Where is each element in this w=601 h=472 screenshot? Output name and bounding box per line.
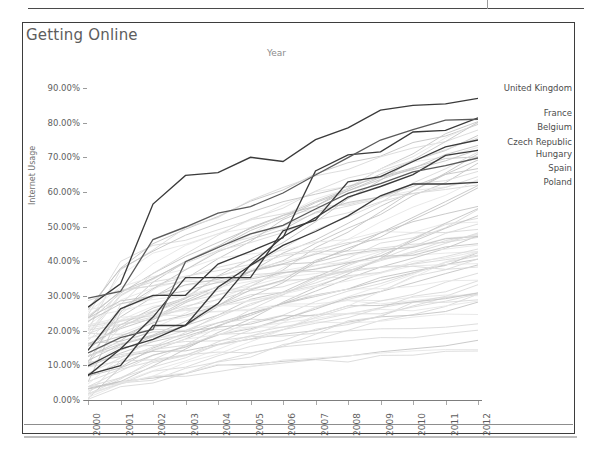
series-label-belgium: Belgium bbox=[0, 122, 572, 132]
x-axis-title: Year bbox=[0, 48, 553, 58]
document-top-rule bbox=[28, 8, 584, 9]
plot-svg bbox=[88, 88, 478, 400]
x-axis-tick-mark bbox=[121, 401, 122, 405]
y-axis-tick-label: 60.00% bbox=[18, 187, 80, 197]
x-axis-tick-mark bbox=[218, 401, 219, 405]
document-top-tick-mark bbox=[487, 0, 488, 9]
y-axis-tick-label: 40.00% bbox=[18, 256, 80, 266]
y-axis-tick-mark bbox=[83, 261, 87, 262]
y-axis-tick-mark bbox=[83, 296, 87, 297]
series-label-france: France bbox=[0, 108, 572, 118]
background-series-line bbox=[88, 301, 478, 384]
chart-frame-shadow bbox=[24, 436, 577, 438]
series-label-hungary: Hungary bbox=[0, 149, 572, 159]
background-series-line bbox=[88, 209, 478, 389]
y-axis-tick-mark bbox=[83, 192, 87, 193]
chart-title: Getting Online bbox=[26, 26, 138, 44]
series-label-poland: Poland bbox=[0, 177, 572, 187]
x-axis-tick-mark bbox=[88, 401, 89, 405]
series-label-spain: Spain bbox=[0, 163, 572, 173]
x-axis-tick-mark bbox=[381, 401, 382, 405]
x-axis-tick-mark bbox=[316, 401, 317, 405]
y-axis-tick-mark bbox=[83, 365, 87, 366]
y-axis-tick-mark bbox=[83, 227, 87, 228]
x-axis-tick-mark bbox=[413, 401, 414, 405]
x-axis-tick-mark bbox=[446, 401, 447, 405]
y-axis-tick-label: 20.00% bbox=[18, 326, 80, 336]
x-axis-tick-mark bbox=[283, 401, 284, 405]
x-axis-tick-mark bbox=[186, 401, 187, 405]
series-label-czech-republic: Czech Republic bbox=[0, 137, 572, 147]
x-axis-tick-mark bbox=[251, 401, 252, 405]
y-axis-tick-label: 50.00% bbox=[18, 222, 80, 232]
x-axis-tick-mark bbox=[153, 401, 154, 405]
page-root: Getting Online Year Internet Usage 0.00%… bbox=[0, 0, 601, 472]
x-axis-tick-mark bbox=[478, 401, 479, 405]
y-axis-tick-label: 30.00% bbox=[18, 291, 80, 301]
plot-area bbox=[88, 88, 478, 400]
x-axis-line bbox=[84, 400, 482, 401]
chart-bottom-rule bbox=[24, 424, 573, 425]
y-axis-tick-label: 0.00% bbox=[18, 395, 80, 405]
series-label-united-kingdom: United Kingdom bbox=[0, 83, 572, 93]
y-axis-tick-mark bbox=[83, 331, 87, 332]
x-axis-tick-mark bbox=[348, 401, 349, 405]
y-axis-tick-label: 10.00% bbox=[18, 360, 80, 370]
